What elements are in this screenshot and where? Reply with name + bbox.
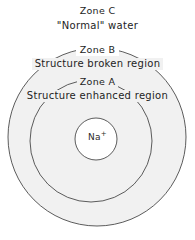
zone-c-description: "Normal" water [0, 21, 195, 31]
ion-symbol: Na [88, 132, 101, 142]
zone-b-description: Structure broken region [0, 58, 195, 70]
zone-c-title: Zone C [0, 6, 195, 16]
ion-charge: + [101, 130, 107, 138]
ion-hydration-diagram: Zone C "Normal" water Zone B Structure b… [0, 0, 195, 240]
zone-b-title-text: Zone B [76, 44, 120, 56]
zone-a-title-text: Zone A [77, 76, 119, 88]
zone-a-description: Structure enhanced region [0, 90, 195, 102]
zone-a-title: Zone A [0, 76, 195, 88]
concentric-circles-graphic [0, 0, 195, 240]
zone-b-description-text: Structure broken region [32, 58, 164, 70]
zone-a-description-text: Structure enhanced region [24, 90, 171, 102]
ion-label: Na+ [0, 131, 195, 142]
zone-b-title: Zone B [0, 44, 195, 56]
zone-c-description-text: "Normal" water [57, 21, 138, 31]
zone-c-title-text: Zone C [80, 6, 116, 16]
